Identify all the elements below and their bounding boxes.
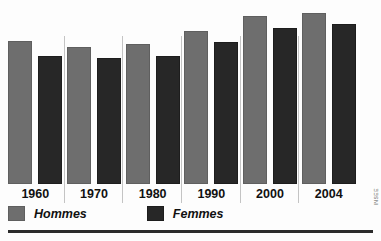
x-tick-1990: 1990 <box>182 184 241 206</box>
bar-femmes-1980[interactable] <box>156 56 180 184</box>
legend-swatch-icon <box>8 206 25 221</box>
bar-wrap-hommes-2004: 30,8 <box>302 0 326 184</box>
bar-group-2004: 30,8 28,8 <box>299 0 358 184</box>
bar-wrap-femmes-1960: 23,0 <box>38 0 62 184</box>
x-tick-2000: 2000 <box>241 184 300 206</box>
bar-femmes-2004[interactable] <box>332 24 356 184</box>
x-tick-1980: 1980 <box>123 184 182 206</box>
bar-femmes-2000[interactable] <box>273 28 297 184</box>
bottom-divider <box>8 230 373 233</box>
bar-wrap-hommes-1970: 24,7 <box>67 0 91 184</box>
bar-group-1990: 27,5 25,6 <box>182 0 241 184</box>
bar-hommes-1960[interactable] <box>8 41 32 184</box>
legend-label-femmes: Femmes <box>173 207 224 221</box>
legend-item-hommes[interactable]: Hommes <box>8 206 87 221</box>
x-tick-1960: 1960 <box>6 184 65 206</box>
bar-wrap-hommes-1990: 27,5 <box>184 0 208 184</box>
bar-groups: 25,7 23,0 24,7 22,6 <box>6 0 358 184</box>
bar-hommes-2000[interactable] <box>243 16 267 184</box>
legend-swatch-icon <box>147 206 164 221</box>
bar-femmes-1970[interactable] <box>97 58 121 184</box>
legend-item-femmes[interactable]: Femmes <box>147 206 224 221</box>
bar-hommes-1970[interactable] <box>67 47 91 184</box>
bar-group-1960: 25,7 23,0 <box>6 0 65 184</box>
bar-femmes-1960[interactable] <box>38 56 62 184</box>
x-tick-2004: 2004 <box>299 184 358 206</box>
bar-wrap-femmes-1990: 25,6 <box>214 0 238 184</box>
bar-wrap-femmes-1970: 22,6 <box>97 0 121 184</box>
chart-legend: Hommes Femmes <box>8 206 224 221</box>
bar-wrap-femmes-2000: 28,1 <box>273 0 297 184</box>
bar-wrap-hommes-1960: 25,7 <box>8 0 32 184</box>
bar-femmes-1990[interactable] <box>214 42 238 184</box>
bar-group-1970: 24,7 22,6 <box>65 0 124 184</box>
x-axis: 1960 1970 1980 1990 2000 2004 <box>6 184 358 206</box>
bar-group-1980: 25,1 23,0 <box>123 0 182 184</box>
bar-wrap-hommes-1980: 25,1 <box>126 0 150 184</box>
bar-group-2000: 30,2 28,1 <box>241 0 300 184</box>
bar-hommes-2004[interactable] <box>302 13 326 184</box>
bar-wrap-hommes-2000: 30,2 <box>243 0 267 184</box>
bar-wrap-femmes-2004: 28,8 <box>332 0 356 184</box>
bar-hommes-1990[interactable] <box>184 31 208 184</box>
bar-hommes-1980[interactable] <box>126 44 150 184</box>
source-credit: INSEE <box>373 188 379 206</box>
bar-chart: 25,7 23,0 24,7 22,6 <box>0 0 381 241</box>
x-tick-1970: 1970 <box>65 184 124 206</box>
legend-label-hommes: Hommes <box>34 207 87 221</box>
plot-area: 25,7 23,0 24,7 22,6 <box>0 0 381 184</box>
bar-wrap-femmes-1980: 23,0 <box>156 0 180 184</box>
